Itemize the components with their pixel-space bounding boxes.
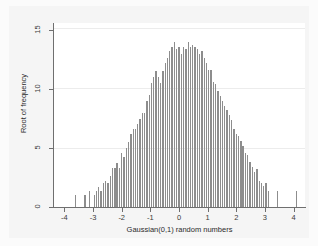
x-tick-label: 4 bbox=[284, 213, 304, 222]
plot-area bbox=[53, 23, 305, 207]
spike-bar bbox=[201, 51, 202, 207]
spike-bar bbox=[89, 191, 90, 208]
spike-bar bbox=[220, 96, 221, 207]
spike-bar bbox=[174, 42, 175, 207]
x-axis-title: Gaussian(0,1) random numbers bbox=[53, 225, 306, 234]
x-tick-mark bbox=[93, 208, 94, 212]
x-tick-label: 0 bbox=[169, 213, 189, 222]
x-tick-label: 1 bbox=[198, 213, 218, 222]
x-tick-label: -2 bbox=[112, 213, 132, 222]
x-tick-mark bbox=[64, 208, 65, 212]
spike-bar bbox=[121, 153, 122, 207]
spike-bar bbox=[98, 187, 99, 207]
graph-region: 051015 -4-3-2-101234 Root of frequency G… bbox=[9, 6, 309, 238]
spike-bar bbox=[217, 91, 218, 207]
spike-bar bbox=[265, 183, 266, 207]
spike-bar bbox=[259, 181, 260, 207]
spike-bar bbox=[103, 183, 104, 207]
spike-bar bbox=[112, 168, 113, 207]
spike-bar bbox=[206, 63, 207, 207]
x-tick-mark bbox=[150, 208, 151, 212]
spike-bar bbox=[169, 51, 170, 207]
spike-bar bbox=[242, 146, 243, 207]
x-tick-mark bbox=[294, 208, 295, 212]
spike-bar bbox=[155, 71, 156, 207]
spike-bar bbox=[190, 47, 191, 207]
spike-bar bbox=[149, 95, 150, 207]
spike-bar bbox=[233, 129, 234, 207]
y-tick-mark bbox=[49, 30, 53, 31]
spike-bar bbox=[183, 47, 184, 207]
y-tick-mark bbox=[49, 148, 53, 149]
spike-bar bbox=[263, 186, 264, 207]
spike-bar bbox=[236, 134, 237, 207]
spike-bar bbox=[210, 70, 211, 207]
spike-bar bbox=[135, 129, 136, 207]
spike-bar bbox=[197, 49, 198, 207]
spike-bar bbox=[139, 119, 140, 207]
spike-bar bbox=[105, 181, 106, 207]
spike-bar bbox=[222, 101, 223, 207]
spike-bar bbox=[178, 47, 179, 207]
spike-bar bbox=[171, 47, 172, 207]
spike-bar bbox=[100, 191, 101, 208]
spike-bar bbox=[116, 163, 117, 207]
x-tick-mark bbox=[122, 208, 123, 212]
gridline-y15 bbox=[53, 28, 305, 29]
spike-bar bbox=[296, 191, 297, 208]
spike-bar bbox=[181, 54, 182, 207]
figure: 051015 -4-3-2-101234 Root of frequency G… bbox=[0, 0, 318, 246]
spike-bar bbox=[128, 142, 129, 207]
spike-bar bbox=[277, 191, 278, 208]
spike-bar bbox=[96, 191, 97, 208]
spike-bar bbox=[151, 83, 152, 207]
spike-bar bbox=[213, 82, 214, 207]
x-tick-mark bbox=[265, 208, 266, 212]
y-tick-mark bbox=[49, 89, 53, 90]
spike-bar bbox=[165, 63, 166, 207]
spike-bar bbox=[126, 148, 127, 207]
spike-bar bbox=[167, 58, 168, 207]
x-tick-mark bbox=[208, 208, 209, 212]
spike-bar bbox=[204, 58, 205, 207]
spike-bar bbox=[188, 42, 189, 207]
y-tick-label: 15 bbox=[33, 20, 42, 40]
y-tick-mark bbox=[49, 207, 53, 208]
spike-bar bbox=[224, 106, 225, 207]
spike-bar bbox=[84, 195, 85, 207]
x-tick-label: -4 bbox=[54, 213, 74, 222]
x-tick-label: -1 bbox=[140, 213, 160, 222]
y-tick-label: 0 bbox=[33, 197, 42, 217]
spike-bar bbox=[240, 141, 241, 207]
y-axis-title: Root of frequency bbox=[19, 54, 28, 154]
spike-bar bbox=[162, 71, 163, 207]
spike-bar bbox=[146, 101, 147, 207]
spike-bar bbox=[144, 113, 145, 207]
spike-bar bbox=[194, 47, 195, 207]
spike-bar bbox=[208, 70, 209, 207]
x-tick-label: -3 bbox=[83, 213, 103, 222]
spike-bar bbox=[249, 162, 250, 207]
spike-bar bbox=[137, 124, 138, 207]
spike-bar bbox=[231, 120, 232, 207]
spike-bar bbox=[107, 183, 108, 207]
spike-bar bbox=[133, 129, 134, 207]
spike-bar bbox=[94, 195, 95, 207]
spike-bar bbox=[158, 77, 159, 207]
spike-bar bbox=[245, 153, 246, 207]
spike-bar bbox=[261, 183, 262, 207]
y-tick-label: 5 bbox=[33, 138, 42, 158]
x-tick-label: 3 bbox=[255, 213, 275, 222]
spike-bar bbox=[160, 83, 161, 207]
spike-bar bbox=[119, 168, 120, 207]
spike-bar bbox=[75, 195, 76, 207]
spike-bar bbox=[247, 155, 248, 207]
spike-bar bbox=[254, 172, 255, 207]
spike-bar bbox=[130, 134, 131, 207]
spike-bar bbox=[142, 113, 143, 207]
spike-bar bbox=[176, 49, 177, 207]
y-axis-line bbox=[53, 23, 54, 208]
spike-bar bbox=[153, 77, 154, 207]
spike-bar bbox=[238, 136, 239, 207]
y-tick-label: 10 bbox=[33, 79, 42, 99]
